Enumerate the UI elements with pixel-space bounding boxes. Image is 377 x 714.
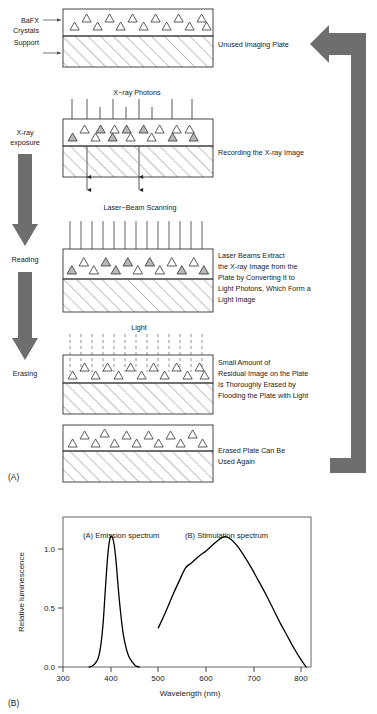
chart-xtick-1: 400 [104,674,118,683]
panel3-caption-line2: the X-ray Image from the [218,262,298,271]
chart-annotation-emission: (A) Emission spectrum [83,531,159,540]
label-bafx: BaFX [21,16,39,25]
reuse-arrow-foot [330,458,366,473]
panel3-top-label: Laser−Beam Scanning [104,203,177,212]
panel3-caption-line1: Laser Beams Extract [218,251,285,260]
stage-label-erasing: Erasing [13,369,37,378]
panel5-caption-line1: Erased Plate Can Be [218,446,285,455]
panel3-caption-line4: Light Photons, Which Form a [218,284,311,293]
stage-label-reading: Reading [12,255,39,264]
figure-svg: BaFX Crystals Support Unused Imaging Pla… [0,0,377,714]
chart-xtick-2: 500 [151,674,165,683]
panel1-caption-line1: Unused Imaging Plate [218,40,289,49]
panel1-support-layer [63,36,213,67]
part-a-label: (A) [8,472,19,482]
chart-y-axis-title: Relative luminescence [17,551,26,632]
panel4-caption-line2: Residual Image on the Plate [218,369,308,378]
chart-xtick-5: 800 [294,674,308,683]
stage-label-xray-line1: X-ray [16,128,34,137]
reuse-arrow-vertical [351,33,366,473]
part-b-label: (B) [8,698,19,708]
chart-annotation-stimulation: (B) Stimulation spectrum [185,531,268,540]
panel3-caption-line3: Plate by Converting It to [218,273,295,282]
panel5-support-layer [63,451,213,482]
stage-label-xray-line2: exposure [10,138,40,147]
panel4-caption-line3: Is Thoroughly Erased by [218,380,296,389]
panel3-caption-line5: Light Image [218,295,256,304]
panel3-support-layer [63,279,213,312]
panel5-caption-line2: Used Again [218,457,255,466]
panel2-caption-line1: Recording the X-ray Image [218,148,304,157]
chart-ytick-0: 0.0 [44,663,56,672]
panel4-support-layer [63,383,213,414]
panel2-top-label: X−ray Photons [113,88,161,97]
chart-x-axis-title: Wavelength (nm) [160,689,221,698]
chart-ytick-2: 1.0 [44,545,56,554]
chart-xtick-3: 600 [199,674,213,683]
panel1-crystal-layer [63,9,213,36]
chart-ytick-1: 0.5 [44,604,56,613]
label-support: Support [14,38,39,47]
panel2-support-layer [63,146,213,177]
panel4-caption-line4: Flooding the Plate with Light [218,391,308,400]
stage-arrow-erasing: Erasing [13,369,37,378]
label-crystals: Crystals [13,26,39,35]
panel4-caption-line1: Small Amount of [218,358,270,367]
figure-container: BaFX Crystals Support Unused Imaging Pla… [0,0,377,714]
chart-xtick-0: 300 [56,674,70,683]
panel4-top-label: Light [131,323,147,332]
chart-xtick-4: 700 [247,674,261,683]
